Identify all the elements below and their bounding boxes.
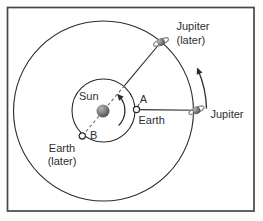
orbit-diagram-figure: Sun A Earth B Earth (later) Jupiter (lat…: [0, 0, 263, 221]
jupiter-label: Jupiter: [211, 108, 244, 120]
jupiter-later-label-line1: Jupiter: [177, 20, 210, 32]
sightline-earth-to-jupiter: [137, 110, 197, 111]
earth-later-label-line2: (later): [48, 155, 77, 167]
point-a-label: A: [140, 93, 148, 105]
sun-label: Sun: [79, 90, 99, 102]
earth-position-b-marker: [79, 133, 85, 139]
earth-label: Earth: [139, 114, 165, 126]
earth-later-label-line1: Earth: [49, 142, 75, 154]
earth-position-a-marker: [133, 106, 139, 112]
orbit-diagram-canvas: Sun A Earth B Earth (later) Jupiter (lat…: [0, 0, 263, 221]
sun-icon: [97, 105, 110, 118]
point-b-label: B: [90, 129, 97, 141]
jupiter-later-label-line2: (later): [177, 34, 206, 46]
